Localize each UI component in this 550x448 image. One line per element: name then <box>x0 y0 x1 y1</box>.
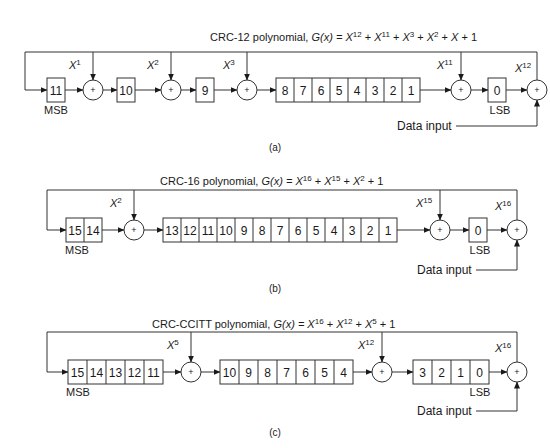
register-cell-3: 3 <box>349 224 356 238</box>
plus-sign: + <box>390 31 403 43</box>
plus-sign: + <box>365 175 378 187</box>
register-group: 11 <box>47 78 65 102</box>
register-group: 87654321 <box>276 78 420 102</box>
tap-label: X1 <box>68 58 81 71</box>
register-cell-1: 1 <box>457 366 464 380</box>
register-cell-1: 1 <box>408 84 415 98</box>
xor-symbol: + <box>514 225 519 235</box>
term-exponent: 1 <box>76 58 81 67</box>
register-cell-6: 6 <box>302 366 309 380</box>
tap-label: X15 <box>415 196 433 209</box>
register-cell-8: 8 <box>259 224 266 238</box>
register-cell-10: 10 <box>223 366 237 380</box>
register-cell-7: 7 <box>277 224 284 238</box>
term-exponent: 12 <box>365 338 374 347</box>
plus-sign: + <box>439 31 452 43</box>
register-group: 13121110987654321 <box>163 218 397 242</box>
poly-term-base: 1 <box>389 318 395 330</box>
register-cell-10: 10 <box>219 224 233 238</box>
xor-gate: + <box>507 220 527 240</box>
xor-symbol: + <box>514 367 519 377</box>
register-cell-5: 5 <box>313 224 320 238</box>
tap-label: X3 <box>222 58 235 71</box>
msb-label: MSB <box>65 244 89 256</box>
register-cell-9: 9 <box>241 224 248 238</box>
register-cell-2: 2 <box>438 366 445 380</box>
tap-label: X16 <box>494 341 512 354</box>
register-cell-11: 11 <box>147 366 160 380</box>
tap-label: X12 <box>514 61 532 74</box>
plus-sign: + <box>340 175 353 187</box>
register-cell-8: 8 <box>264 366 271 380</box>
register-cell-13: 13 <box>109 366 123 380</box>
xor-gate: + <box>451 80 471 100</box>
register-cell-4: 4 <box>331 224 338 238</box>
title-prefix: CRC-16 polynomial, <box>160 175 261 187</box>
register-cell-10: 10 <box>119 84 133 98</box>
register-cell-12: 12 <box>128 366 142 380</box>
panel-b: CRC-16 polynomial, G(x) = X16 + X15 + X2… <box>47 174 527 294</box>
register-cell-9: 9 <box>245 366 252 380</box>
register-cell-7: 7 <box>300 84 307 98</box>
register-cell-14: 14 <box>90 366 104 380</box>
data-input-label: Data input <box>417 263 472 277</box>
xor-gate: + <box>237 80 257 100</box>
xor-gate: + <box>83 80 103 100</box>
plus-sign: + <box>324 318 337 330</box>
register-cell-5: 5 <box>321 366 328 380</box>
lsb-label: LSB <box>470 244 491 256</box>
tap-label: X11 <box>436 58 453 71</box>
xor-gate: + <box>507 362 527 382</box>
tap-label: X16 <box>494 199 512 212</box>
tap-label: X12 <box>357 338 375 351</box>
register-cell-2: 2 <box>390 84 397 98</box>
register-cell-4: 4 <box>354 84 361 98</box>
plus-sign: + <box>377 318 390 330</box>
title-prefix: CRC-12 polynomial, <box>210 31 311 43</box>
polynomial-title: CRC-16 polynomial, G(x) = X16 + X15 + X2… <box>160 174 383 187</box>
msb-label: MSB <box>44 104 68 116</box>
register-group: 10987654 <box>220 360 353 384</box>
xor-gate: + <box>161 80 181 100</box>
xor-symbol: + <box>379 367 384 377</box>
poly-term-base: 1 <box>377 175 383 187</box>
register-cell-12: 12 <box>183 224 197 238</box>
poly-term-base: 1 <box>471 31 477 43</box>
register-cell-3: 3 <box>419 366 426 380</box>
register-cell-2: 2 <box>367 224 374 238</box>
panel-a: CRC-12 polynomial, G(x) = X12 + X11 + X3… <box>25 30 547 153</box>
panel-caption: (a) <box>269 142 281 153</box>
title-gx: G(x) = <box>311 31 345 43</box>
register-cell-0: 0 <box>475 224 482 238</box>
register-group: 9 <box>196 78 214 102</box>
xor-gate: + <box>124 220 144 240</box>
xor-symbol: + <box>90 85 95 95</box>
xor-symbol: + <box>188 367 193 377</box>
xor-gate: + <box>181 362 201 382</box>
xor-gate: + <box>430 220 450 240</box>
plus-sign: + <box>458 31 471 43</box>
panel-caption: (c) <box>269 427 281 438</box>
polynomial-title: CRC-12 polynomial, G(x) = X12 + X11 + X3… <box>210 30 477 43</box>
register-cell-13: 13 <box>165 224 179 238</box>
register-cell-11: 11 <box>50 84 63 98</box>
register-group: 1514131211 <box>68 360 163 384</box>
register-cell-7: 7 <box>283 366 290 380</box>
polynomial-title: CRC-CCITT polynomial, G(x) = X16 + X12 +… <box>152 317 395 330</box>
xor-gate: + <box>527 80 547 100</box>
plus-sign: + <box>312 175 325 187</box>
term-exponent: 2 <box>117 196 122 205</box>
register-cell-3: 3 <box>372 84 379 98</box>
xor-symbol: + <box>131 225 136 235</box>
term-exponent: 3 <box>230 58 235 67</box>
panel-c: CRC-CCITT polynomial, G(x) = X16 + X12 +… <box>47 317 527 438</box>
register-cell-9: 9 <box>202 84 209 98</box>
register-cell-5: 5 <box>336 84 343 98</box>
panel-caption: (b) <box>269 283 281 294</box>
tap-label: X5 <box>166 338 179 351</box>
register-group: 1514 <box>66 218 102 242</box>
register-cell-1: 1 <box>385 224 392 238</box>
term-exponent: 5 <box>174 338 179 347</box>
data-input-label: Data input <box>417 404 472 418</box>
term-exponent: 12 <box>522 61 531 70</box>
